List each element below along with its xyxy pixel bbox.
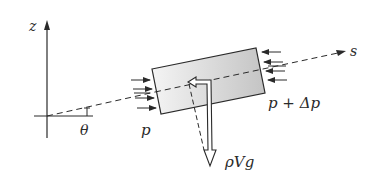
- angle-theta-label: θ: [80, 122, 89, 138]
- pressure-right-label: p + Δp: [268, 94, 321, 112]
- angle-marker: [84, 108, 90, 116]
- z-axis-label: z: [28, 18, 37, 34]
- pressure-arrows-right: [262, 52, 287, 80]
- s-axis-label: s: [350, 43, 357, 59]
- pressure-arrows-left: [131, 80, 156, 108]
- weight-label: ρVg: [224, 153, 254, 171]
- z-axis: [44, 20, 50, 138]
- s-axis-arrow-icon: [336, 50, 346, 56]
- fluid-element-diagram: z θ s p p + Δp ρVg: [0, 0, 374, 179]
- streamline-s: [47, 92, 155, 116]
- z-axis-arrow-icon: [44, 20, 50, 30]
- pressure-left-label: p: [141, 121, 151, 139]
